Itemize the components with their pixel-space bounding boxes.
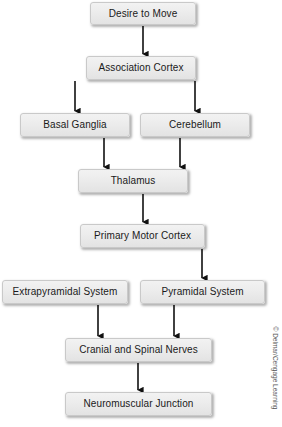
- node-cerebellum: Cerebellum: [140, 113, 250, 137]
- node-label: Extrapyramidal System: [13, 287, 118, 297]
- node-motorcortex: Primary Motor Cortex: [80, 224, 205, 248]
- node-label: Thalamus: [111, 176, 156, 186]
- copyright-credit: © Delmar/Cengage Learning: [268, 313, 282, 423]
- node-thalamus: Thalamus: [78, 169, 188, 193]
- node-basal: Basal Ganglia: [20, 113, 130, 137]
- node-nerves: Cranial and Spinal Nerves: [65, 338, 212, 362]
- node-label: Neuromuscular Junction: [83, 399, 193, 409]
- node-junction: Neuromuscular Junction: [65, 392, 212, 416]
- node-label: Basal Ganglia: [43, 120, 107, 130]
- node-label: Cranial and Spinal Nerves: [79, 345, 198, 355]
- node-label: Desire to Move: [109, 9, 178, 19]
- node-extrapyramidal: Extrapyramidal System: [2, 280, 128, 304]
- node-label: Cerebellum: [169, 120, 221, 130]
- node-desire: Desire to Move: [90, 2, 196, 25]
- flowchart-diagram: Desire to MoveAssociation CortexBasal Ga…: [0, 0, 282, 427]
- node-pyramidal: Pyramidal System: [140, 280, 265, 304]
- node-label: Pyramidal System: [161, 287, 243, 297]
- edges: [75, 26, 202, 390]
- node-association: Association Cortex: [86, 56, 196, 80]
- node-label: Primary Motor Cortex: [94, 231, 191, 241]
- copyright-text: © Delmar/Cengage Learning: [272, 327, 279, 410]
- node-label: Association Cortex: [98, 63, 183, 73]
